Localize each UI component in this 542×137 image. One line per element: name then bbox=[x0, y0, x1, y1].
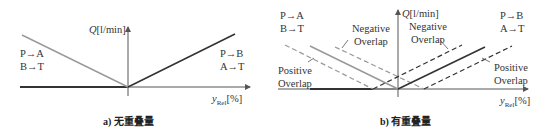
y-axis-var: Q bbox=[402, 8, 410, 19]
right-flow-label: P→B A→T bbox=[500, 9, 525, 35]
panel-with-overlap: Q[l/min] yRel[%] P→A B→T P→B A→T Negativ… bbox=[270, 0, 542, 137]
zero-overlap-line-left bbox=[310, 46, 398, 89]
x-axis-sub: Rel bbox=[505, 101, 515, 109]
flow-b-t: B→T bbox=[20, 60, 44, 73]
y-axis-label: Q[l/min] bbox=[402, 8, 439, 20]
caption-a: a) 无重叠量 bbox=[103, 113, 154, 128]
label-line-1: Negative bbox=[409, 20, 447, 33]
flow-p-a: P→A bbox=[20, 47, 44, 60]
y-axis-unit: [l/min] bbox=[410, 8, 439, 19]
y-axis-unit: [l/min] bbox=[97, 24, 126, 35]
negative-overlap-label-right: Negative Overlap bbox=[409, 20, 447, 46]
x-axis-label: yRel[%] bbox=[212, 93, 242, 109]
negative-overlap-label-left: Negative Overlap bbox=[352, 22, 390, 48]
flow-a-t: A→T bbox=[220, 60, 245, 73]
zero-overlap-line-right bbox=[398, 47, 485, 89]
positive-overlap-label-right: Positive Overlap bbox=[494, 61, 528, 87]
flow-line-right bbox=[128, 34, 235, 87]
label-line-1: Positive bbox=[278, 64, 312, 77]
flow-b-t: B→T bbox=[280, 22, 304, 35]
x-axis-sub: Rel bbox=[217, 99, 227, 107]
positive-overlap-line-right-inner bbox=[373, 45, 462, 89]
flow-p-b: P→B bbox=[220, 47, 245, 60]
left-flow-label: P→A B→T bbox=[20, 47, 44, 73]
label-line-2: Overlap bbox=[409, 33, 447, 46]
label-line-1: Negative bbox=[352, 22, 390, 35]
label-line-2: Overlap bbox=[278, 77, 312, 90]
y-axis-var: Q bbox=[89, 24, 97, 35]
x-axis-label: yRel[%] bbox=[500, 95, 530, 111]
flow-p-a: P→A bbox=[280, 9, 304, 22]
caption-b: b) 有重叠量 bbox=[380, 113, 431, 128]
label-line-2: Overlap bbox=[494, 74, 528, 87]
positive-overlap-label-left: Positive Overlap bbox=[278, 64, 312, 90]
leader-negative-left bbox=[342, 40, 348, 48]
label-line-2: Overlap bbox=[352, 35, 390, 48]
x-axis-unit: [%] bbox=[514, 95, 530, 106]
y-axis-label: Q[l/min] bbox=[89, 24, 126, 36]
leader-positive-left bbox=[308, 58, 314, 62]
left-flow-label: P→A B→T bbox=[280, 9, 304, 35]
flow-p-b: P→B bbox=[500, 9, 525, 22]
flow-a-t: A→T bbox=[500, 22, 525, 35]
right-flow-label: P→B A→T bbox=[220, 47, 245, 73]
label-line-1: Positive bbox=[494, 61, 528, 74]
x-axis-unit: [%] bbox=[226, 93, 242, 104]
panel-no-overlap: Q[l/min] yRel[%] P→A B→T P→B A→T a) 无重叠量 bbox=[0, 0, 270, 137]
